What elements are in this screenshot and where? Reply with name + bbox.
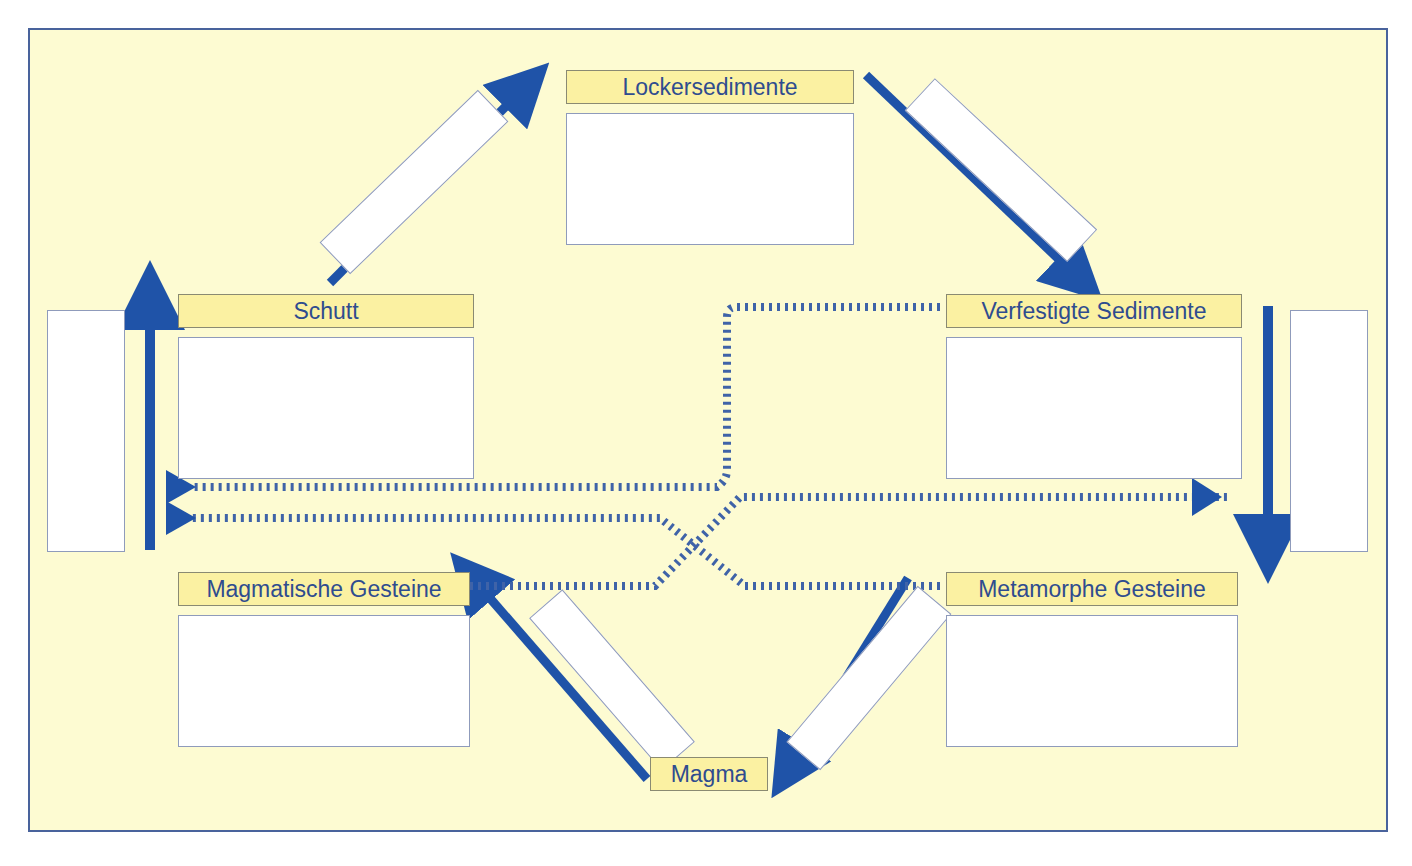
node-label-schutt: Schutt xyxy=(178,294,474,328)
blank-box-magmatische-gesteine[interactable] xyxy=(178,615,470,747)
blank-box-lockersedimente[interactable] xyxy=(566,113,854,245)
blank-box-diagonal-bottom-left[interactable] xyxy=(529,589,695,770)
node-label-magmatische-gesteine: Magmatische Gesteine xyxy=(178,572,470,606)
blank-box-diagonal-bottom-right[interactable] xyxy=(787,586,952,771)
node-magma: Magma xyxy=(650,757,768,791)
diagram-canvas: Lockersedimente Schutt Verfestigte Sedim… xyxy=(0,0,1412,866)
node-label-magma: Magma xyxy=(650,757,768,791)
node-label-metamorphe-gesteine: Metamorphe Gesteine xyxy=(946,572,1238,606)
blank-box-diagonal-top-left[interactable] xyxy=(320,90,509,274)
node-verfestigte-sedimente: Verfestigte Sedimente xyxy=(946,294,1242,479)
node-magmatische-gesteine: Magmatische Gesteine xyxy=(178,572,470,747)
arrow-lockersedimente-to-verfestigte xyxy=(866,75,1068,268)
diagram-frame: Lockersedimente Schutt Verfestigte Sedim… xyxy=(28,28,1388,832)
node-label-lockersedimente: Lockersedimente xyxy=(566,70,854,104)
node-lockersedimente: Lockersedimente xyxy=(566,70,854,245)
blank-box-metamorphe-gesteine[interactable] xyxy=(946,615,1238,747)
arrow-magmatische-to-right-dotted xyxy=(470,478,1228,586)
node-schutt: Schutt xyxy=(178,294,474,479)
blank-box-diagonal-top-right[interactable] xyxy=(905,78,1097,262)
blank-box-verfestigte-sedimente[interactable] xyxy=(946,337,1242,479)
blank-box-schutt[interactable] xyxy=(178,337,474,479)
blank-box-right-vertical[interactable] xyxy=(1290,310,1368,552)
blank-box-left-vertical[interactable] xyxy=(47,310,125,552)
node-label-verfestigte-sedimente: Verfestigte Sedimente xyxy=(946,294,1242,328)
node-metamorphe-gesteine: Metamorphe Gesteine xyxy=(946,572,1238,747)
